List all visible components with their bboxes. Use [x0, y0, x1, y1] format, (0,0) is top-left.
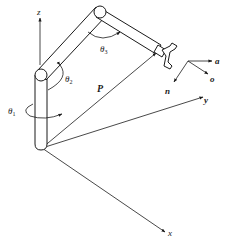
position-vector-p — [42, 53, 156, 148]
n-axis — [174, 61, 188, 82]
theta2-label: θ2 — [65, 74, 72, 85]
shoulder-joint — [35, 69, 47, 81]
upper-arm-link — [38, 7, 106, 80]
elbow-joint — [94, 6, 106, 18]
position-vector-label: P — [97, 83, 104, 94]
y-axis — [42, 97, 203, 148]
theta1-label: θ1 — [8, 106, 15, 117]
z-axis-label: z — [36, 7, 41, 17]
x-axis — [42, 148, 165, 232]
y-axis-label: y — [203, 95, 209, 105]
end-effector-frame — [174, 61, 212, 82]
base-link — [35, 75, 47, 150]
n-axis-label: n — [165, 86, 170, 96]
x-axis-label: x — [167, 228, 172, 238]
o-axis-label: o — [210, 74, 215, 84]
gripper — [162, 43, 177, 69]
a-axis-label: a — [215, 56, 220, 66]
o-axis — [188, 61, 208, 74]
robot-arm — [35, 6, 177, 150]
theta3-label: θ3 — [100, 44, 107, 55]
robot-arm-diagram: z y x P θ1 θ2 θ3 a o n — [0, 0, 225, 246]
theta3-arc — [88, 32, 120, 38]
